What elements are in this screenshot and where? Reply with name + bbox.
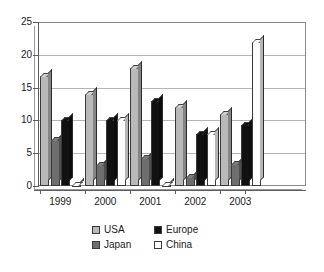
bar-japan-2000 bbox=[96, 165, 105, 186]
bar-side-face bbox=[260, 35, 264, 181]
legend-swatch-japan-icon bbox=[92, 241, 100, 249]
bar-usa-2001 bbox=[130, 68, 139, 186]
x-axis-tick bbox=[220, 190, 221, 194]
bar-europe-2002 bbox=[196, 134, 205, 186]
legend-label-china: China bbox=[166, 239, 192, 250]
legend-item-japan: Japan bbox=[92, 239, 154, 250]
legend-item-europe: Europe bbox=[154, 224, 242, 235]
bar-japan-1999 bbox=[51, 140, 60, 186]
bar-china-2003 bbox=[252, 42, 261, 186]
bar-side-face bbox=[69, 113, 73, 181]
bar-usa-2000 bbox=[85, 94, 94, 186]
x-axis-tick-label: 2002 bbox=[172, 196, 218, 207]
x-axis-tick-label: 2001 bbox=[127, 196, 173, 207]
bar-japan-2002 bbox=[186, 177, 195, 186]
bar-side-face bbox=[125, 113, 129, 181]
legend-swatch-europe-icon bbox=[154, 226, 162, 234]
bar-europe-2003 bbox=[241, 125, 250, 186]
bar-usa-2003 bbox=[220, 114, 229, 186]
bar-side-face bbox=[183, 100, 187, 181]
legend-label-europe: Europe bbox=[166, 224, 198, 235]
bar-chart: 0510152025 19992000200120022003 USA Euro… bbox=[0, 0, 324, 272]
bar-europe-2001 bbox=[151, 101, 160, 186]
legend-swatch-china-icon bbox=[154, 241, 162, 249]
legend-item-china: China bbox=[154, 239, 242, 250]
x-axis-tick bbox=[175, 190, 176, 194]
bar-china-1999 bbox=[72, 185, 81, 187]
legend-swatch-usa-icon bbox=[92, 226, 100, 234]
x-axis-tick bbox=[130, 190, 131, 194]
x-axis-tick bbox=[245, 190, 246, 194]
bar-usa-2002 bbox=[175, 107, 184, 186]
bar-china-2002 bbox=[207, 134, 216, 186]
bar-china-2000 bbox=[117, 120, 126, 186]
legend-label-japan: Japan bbox=[104, 239, 131, 250]
x-axis-tick bbox=[40, 190, 41, 194]
x-axis-tick bbox=[85, 190, 86, 194]
bar-japan-2003 bbox=[231, 164, 240, 186]
bar-side-face bbox=[159, 94, 163, 181]
bar-japan-2001 bbox=[141, 158, 150, 186]
legend-label-usa: USA bbox=[104, 224, 125, 235]
bar-side-face bbox=[215, 127, 219, 181]
bar-china-2001 bbox=[162, 185, 171, 187]
legend-item-usa: USA bbox=[92, 224, 154, 235]
x-axis-tick-label: 2000 bbox=[82, 196, 128, 207]
x-axis-tick-label: 1999 bbox=[37, 196, 83, 207]
x-axis-tick-label: 2003 bbox=[217, 196, 263, 207]
bar-europe-2000 bbox=[106, 120, 115, 186]
bar-europe-1999 bbox=[61, 120, 70, 186]
bar-usa-1999 bbox=[40, 76, 49, 186]
chart-legend: USA Europe Japan China bbox=[92, 222, 242, 252]
x-axis bbox=[34, 190, 306, 191]
